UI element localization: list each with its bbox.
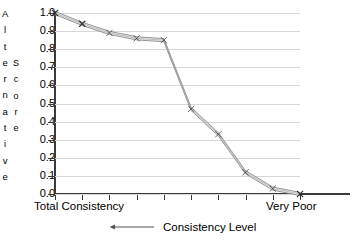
gridline <box>55 85 300 86</box>
gridline <box>55 194 300 195</box>
gridline <box>55 140 300 141</box>
plot-area <box>55 13 300 194</box>
gridline <box>55 104 300 105</box>
gridline <box>55 13 300 14</box>
x-axis-tick-mark <box>246 195 247 200</box>
gridline-group <box>55 13 300 194</box>
x-axis-label-very-poor: Very Poor <box>266 200 317 213</box>
x-axis-tick-mark <box>191 195 192 200</box>
y-axis-tick-group: 1.00.90.80.70.60.50.40.30.20.10.0 <box>0 0 55 200</box>
gridline <box>55 158 300 159</box>
gridline <box>55 176 300 177</box>
gridline <box>55 49 300 50</box>
legend-arrow-icon <box>108 222 156 232</box>
legend-label: Consistency Level <box>163 221 256 234</box>
x-axis-tick-mark <box>300 195 301 200</box>
gridline <box>55 31 300 32</box>
x-axis-tick-mark <box>82 195 83 200</box>
gridline <box>55 122 300 123</box>
x-axis-label-total-consistency: Total Consistency <box>34 200 124 213</box>
x-axis-tick-mark <box>218 195 219 200</box>
x-axis-tick-mark <box>164 195 165 200</box>
x-axis-tick-mark <box>109 195 110 200</box>
x-axis-tick-mark <box>137 195 138 200</box>
legend: Consistency Level <box>108 219 256 235</box>
x-axis-tick-mark <box>273 195 274 200</box>
gridline <box>55 67 300 68</box>
x-axis-tick-mark <box>55 195 56 200</box>
